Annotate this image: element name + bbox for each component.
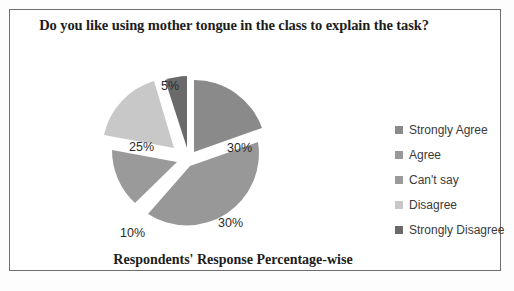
slice-label-strongly-disagree: 5%: [161, 79, 179, 93]
legend-item-strongly-agree[interactable]: Strongly Agree: [395, 117, 514, 142]
legend-item-disagree[interactable]: Disagree: [395, 192, 514, 217]
chart-legend: Strongly Agree Agree Can't say Disagree …: [395, 117, 514, 242]
legend-label: Can't say: [409, 173, 459, 187]
legend-item-agree[interactable]: Agree: [395, 142, 514, 167]
legend-item-strongly-disagree[interactable]: Strongly Disagree: [395, 217, 514, 242]
pie-plot-area: 30% 30% 10% 25% 5% Strongly Agree Agree …: [9, 9, 501, 271]
slice-label-disagree: 25%: [129, 140, 154, 154]
legend-label: Disagree: [409, 198, 457, 212]
legend-label: Strongly Disagree: [409, 223, 504, 237]
slice-label-cant-say: 10%: [120, 226, 145, 240]
legend-swatch-icon: [395, 151, 403, 159]
legend-swatch-icon: [395, 176, 403, 184]
legend-swatch-icon: [395, 226, 403, 234]
legend-swatch-icon: [395, 126, 403, 134]
slice-label-agree: 30%: [218, 216, 243, 230]
slice-label-strongly-agree: 30%: [227, 141, 252, 155]
legend-label: Agree: [409, 148, 441, 162]
chart-figure: Do you like using mother tongue in the c…: [0, 0, 514, 291]
chart-caption: Respondents' Response Percentage-wise: [33, 252, 433, 268]
legend-swatch-icon: [395, 201, 403, 209]
legend-item-cant-say[interactable]: Can't say: [395, 167, 514, 192]
legend-label: Strongly Agree: [409, 123, 488, 137]
